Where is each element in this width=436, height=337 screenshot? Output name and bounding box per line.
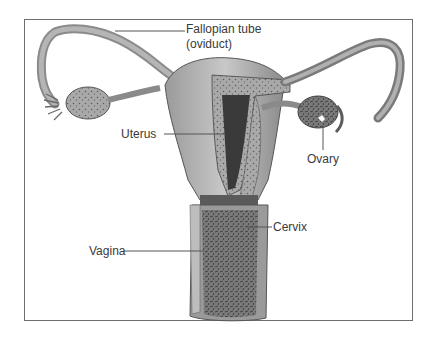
label-fallopian-tube: Fallopian tube (186, 22, 261, 36)
label-uterus: Uterus (121, 127, 156, 141)
right-ovary (298, 96, 338, 128)
label-ovary: Ovary (307, 152, 339, 166)
label-vagina: Vagina (89, 244, 125, 258)
label-cervix: Cervix (273, 220, 307, 234)
left-ovary (66, 87, 110, 119)
label-oviduct: (oviduct) (186, 37, 232, 51)
